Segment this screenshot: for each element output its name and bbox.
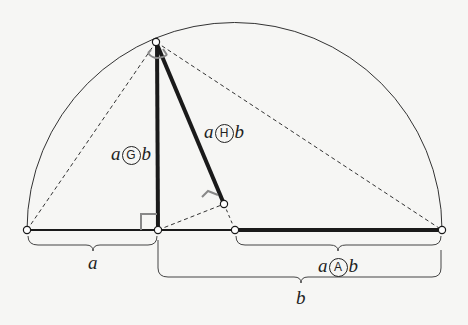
label-g-left: a xyxy=(111,143,121,164)
right-angle-marker-harmonic xyxy=(202,191,218,197)
label-g-right: b xyxy=(142,143,152,164)
label-a-left: a xyxy=(318,255,328,276)
means-diagram xyxy=(0,0,468,325)
label-h-right: b xyxy=(235,121,245,142)
point-left-end xyxy=(23,226,30,233)
point-harmonic-foot xyxy=(220,200,227,207)
brace-arithmetic xyxy=(236,236,441,251)
label-geometric-mean: aGb xyxy=(111,144,151,165)
right-angle-marker-top-tick2 xyxy=(148,50,151,53)
dashed-chord-left xyxy=(27,42,156,230)
brace-a xyxy=(28,236,157,251)
brace-b xyxy=(158,240,441,283)
geometric-mean-operator-icon: G xyxy=(122,146,141,165)
point-right-end xyxy=(438,226,445,233)
label-segment-a: a xyxy=(88,253,98,272)
label-harmonic-mean: aHb xyxy=(204,122,244,143)
dashed-harmonic-to-center xyxy=(224,204,235,230)
diagram-canvas: aGb aHb aAb a b xyxy=(0,0,468,325)
right-angle-marker-top-tick xyxy=(163,49,167,55)
dashed-foot-to-harmonic xyxy=(158,204,224,230)
label-a-right: b xyxy=(349,255,359,276)
geometric-mean-segment xyxy=(157,42,158,230)
label-h-left: a xyxy=(204,121,214,142)
label-arithmetic-mean: aAb xyxy=(318,256,358,277)
point-center xyxy=(231,226,238,233)
label-segment-b: b xyxy=(296,288,306,307)
arithmetic-mean-operator-icon: A xyxy=(329,258,348,277)
dashed-chord-right xyxy=(156,42,442,230)
point-foot xyxy=(154,226,161,233)
harmonic-mean-operator-icon: H xyxy=(215,124,234,143)
point-top xyxy=(152,38,159,45)
